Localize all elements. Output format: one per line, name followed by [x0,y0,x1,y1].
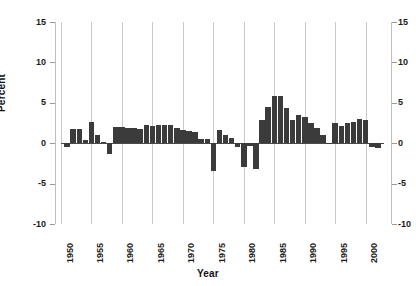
bar-1977 [223,135,228,143]
bar-2001 [369,143,374,147]
y-axis-right-spine [391,22,392,224]
y-tick-label-left--10: -10 [18,220,46,229]
y-tick-label-right-0: 0 [398,139,416,148]
bar-1990 [302,117,307,144]
bar-1963 [137,129,142,144]
x-tick-label-2000: 2000 [370,243,379,263]
y-tick-left--5 [50,184,55,185]
bar-1960 [119,127,124,143]
bar-1969 [174,128,179,143]
y-tick-right--5 [392,184,397,185]
bar-1954 [83,140,88,143]
y-tick-right-5 [392,103,397,104]
x-tick-label-1990: 1990 [309,243,318,263]
bar-1953 [77,129,82,143]
bar-1967 [162,125,167,143]
bar-1952 [70,129,75,143]
bar-1998 [351,122,356,143]
x-tick-label-1960: 1960 [126,243,135,263]
bar-1988 [290,120,295,143]
bar-1955 [89,122,94,143]
bar-1973 [198,139,203,143]
y-tick-left-15 [50,22,55,23]
bar-1975 [211,143,216,171]
y-tick-label-left-5: 5 [18,98,46,107]
bar-1994 [326,143,331,144]
y-tick-left-5 [50,103,55,104]
bar-1964 [144,125,149,143]
bar-1971 [186,131,191,143]
bar-1985 [272,96,277,144]
bar-1995 [332,123,337,143]
bar-2002 [375,143,380,148]
y-tick-label-right-5: 5 [398,98,416,107]
x-tick-label-1985: 1985 [279,243,288,263]
bar-1956 [95,135,100,143]
x-tick-label-1970: 1970 [187,243,196,263]
y-tick-right-15 [392,22,397,23]
bar-1982 [253,143,258,169]
x-tick-label-1995: 1995 [340,243,349,263]
bar-1958 [107,143,112,154]
bar-1978 [229,138,234,143]
bar-1968 [168,125,173,143]
bar-1965 [150,126,155,143]
x-axis-title: Year [0,268,416,279]
bar-1997 [345,123,350,143]
bar-1966 [156,125,161,144]
bar-1986 [278,96,283,144]
y-tick-label-left--5: -5 [18,179,46,188]
bar-1970 [180,130,185,143]
y-tick-label-left-0: 0 [18,139,46,148]
bar-2000 [363,120,368,143]
x-tick-label-1965: 1965 [157,243,166,263]
bar-1987 [284,108,289,144]
bar-1999 [357,119,362,143]
y-tick-label-right-10: 10 [398,58,416,67]
y-axis-title: Percent [0,74,7,112]
chart-figure: 151050-5-10 151050-5-10 1950195519601965… [0,0,416,286]
bar-series [61,22,384,224]
y-tick-label-right--5: -5 [398,179,416,188]
bar-1991 [308,123,313,143]
y-tick-right--10 [392,224,397,225]
y-tick-right-0 [392,143,397,144]
bar-1996 [339,126,344,143]
bar-1981 [247,143,252,145]
bar-1962 [131,128,136,143]
x-tick-label-1975: 1975 [218,243,227,263]
bar-1961 [125,128,130,143]
bar-1959 [113,127,118,143]
bar-1972 [192,132,197,143]
y-tick-label-left-15: 15 [18,18,46,27]
y-axis-left-spine [55,22,56,224]
bar-1957 [101,142,106,144]
bar-1992 [314,128,319,143]
bar-1989 [296,115,301,143]
y-tick-left-10 [50,62,55,63]
bar-1993 [320,135,325,143]
bar-1984 [265,107,270,143]
bar-1983 [259,120,264,143]
y-tick-left-0 [50,143,55,144]
bar-1951 [64,143,69,147]
x-tick-label-1950: 1950 [66,243,75,263]
bar-1979 [235,143,240,147]
y-tick-label-right--10: -10 [398,220,416,229]
bar-1974 [205,139,210,143]
bar-1980 [241,143,246,167]
x-tick-label-1980: 1980 [248,243,257,263]
y-tick-left--10 [50,224,55,225]
y-tick-right-10 [392,62,397,63]
y-tick-label-left-10: 10 [18,58,46,67]
y-tick-label-right-15: 15 [398,18,416,27]
bar-1976 [217,130,222,143]
plot-area [61,22,384,224]
x-tick-label-1955: 1955 [96,243,105,263]
